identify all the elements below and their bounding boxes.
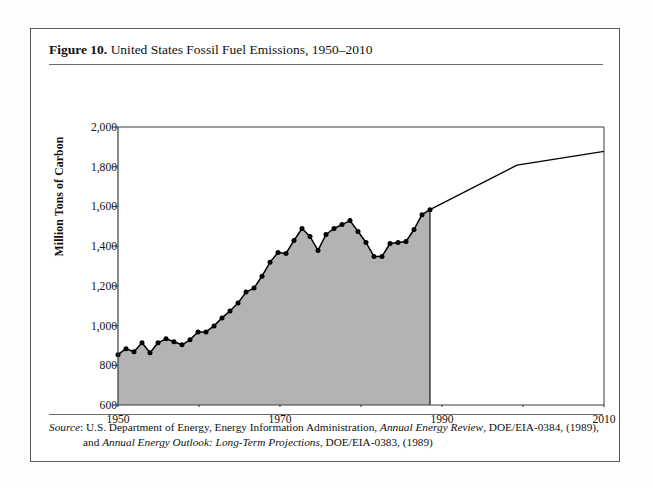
- figure-label: Figure 10.: [49, 42, 107, 57]
- source-line2-post: , DOE/EIA-0383, (1989): [320, 436, 433, 448]
- figure-page: Figure 10. United States Fossil Fuel Emi…: [0, 0, 653, 488]
- source-note: Source: U.S. Department of Energy, Energ…: [49, 420, 609, 450]
- source-label: Source: [49, 421, 80, 433]
- figure-caption: Figure 10. United States Fossil Fuel Emi…: [49, 41, 605, 58]
- figure-box: Figure 10. United States Fossil Fuel Emi…: [30, 28, 620, 462]
- source-divider: [49, 414, 603, 415]
- source-line2-italic: Annual Energy Outlook: Long-Term Project…: [102, 436, 320, 448]
- source-line2-pre: and: [83, 436, 102, 448]
- source-line2: and Annual Energy Outlook: Long-Term Pro…: [49, 435, 609, 450]
- x-axis-tick-labels: 1950 1970 1990 2010: [31, 359, 621, 379]
- caption-divider: [49, 64, 603, 65]
- figure-title: United States Fossil Fuel Emissions, 195…: [107, 42, 372, 57]
- source-line1-pre: U.S. Department of Energy, Energy Inform…: [86, 421, 380, 433]
- emissions-plot: [31, 77, 621, 407]
- source-line1-post: , DOE/EIA-0384, (1989),: [483, 421, 599, 433]
- chart-area: Million Tons of Carbon 2,000 1,800 1,600…: [31, 77, 621, 407]
- projection-line: [430, 151, 604, 209]
- source-line1-italic: Annual Energy Review: [380, 421, 483, 433]
